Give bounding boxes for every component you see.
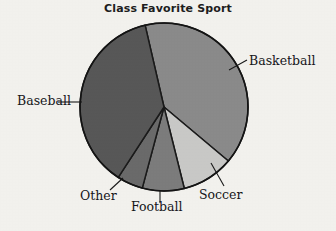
- pie-label-football: Football: [131, 201, 183, 214]
- pie-label-other: Other: [80, 190, 117, 203]
- pie-label-soccer: Soccer: [199, 189, 242, 202]
- chart-page: Class Favorite Sport Basketball Soccer F…: [0, 0, 336, 231]
- pie-slices-group: [80, 23, 248, 191]
- pie-chart-svg: [0, 0, 336, 231]
- pie-label-basketball: Basketball: [249, 55, 316, 68]
- pie-label-baseball: Baseball: [17, 95, 71, 108]
